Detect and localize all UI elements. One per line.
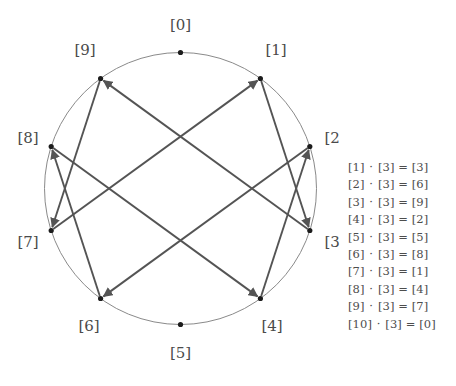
modular-multiplication-diagram: [0][1][2][3][4][5][6][7][8][9] [0, 0, 340, 386]
vertex-label-7: [7] [17, 233, 38, 251]
equation-rhs: [4] [412, 282, 429, 296]
equation-op: · [368, 282, 374, 296]
vertex-label-6: [6] [78, 317, 99, 335]
vertex-dot-2 [307, 144, 312, 149]
equation-factor: [3] [378, 230, 395, 244]
vertex-dot-4 [258, 296, 263, 301]
edge-1-to-3 [261, 81, 308, 227]
outer-circle [45, 53, 317, 325]
vertex-label-5: [5] [170, 344, 191, 362]
equation-factor: [3] [378, 264, 395, 278]
equation-row: [4] · [3] = [2] [348, 211, 456, 228]
equation-lhs: [5] [348, 230, 365, 244]
equation-op: · [368, 230, 374, 244]
equation-rhs: [8] [412, 247, 429, 261]
vertex-dot-7 [49, 228, 54, 233]
equation-eq: = [406, 317, 416, 331]
diagram-svg: [0][1][2][3][4][5][6][7][8][9] [0, 0, 340, 386]
equation-lhs: [6] [348, 247, 365, 261]
equation-factor: [3] [378, 212, 395, 226]
equation-lhs: [4] [348, 212, 365, 226]
equation-op: · [368, 212, 374, 226]
equation-factor: [3] [378, 177, 395, 191]
equation-eq: = [398, 282, 408, 296]
equation-eq: = [398, 212, 408, 226]
equation-op: · [368, 264, 374, 278]
vertex-label-0: [0] [170, 16, 191, 34]
vertex-layer [49, 50, 313, 327]
vertex-dot-8 [49, 144, 54, 149]
equation-row: [5] · [3] = [5] [348, 229, 456, 246]
equation-lhs: [2] [348, 177, 365, 191]
equation-rhs: [5] [412, 230, 429, 244]
equation-factor: [3] [378, 247, 395, 261]
equation-row: [2] · [3] = [6] [348, 176, 456, 193]
equation-op: · [376, 317, 382, 331]
vertex-dot-6 [98, 296, 103, 301]
equation-row: [9] · [3] = [7] [348, 298, 456, 315]
equation-eq: = [398, 160, 408, 174]
equation-rhs: [7] [412, 299, 429, 313]
equation-eq: = [398, 230, 408, 244]
equation-lhs: [9] [348, 299, 365, 313]
figure-root: [0][1][2][3][4][5][6][7][8][9] [1] · [3]… [0, 0, 456, 386]
equation-row: [8] · [3] = [4] [348, 281, 456, 298]
equation-row: [1] · [3] = [3] [348, 159, 456, 176]
equation-factor: [3] [378, 160, 395, 174]
vertex-dot-1 [258, 76, 263, 81]
equation-list: [1] · [3] = [3][2] · [3] = [6][3] · [3] … [348, 159, 456, 333]
equation-rhs: [0] [419, 317, 436, 331]
vertex-label-4: [4] [261, 317, 282, 335]
equation-eq: = [398, 247, 408, 261]
equation-op: · [368, 160, 374, 174]
equation-row: [7] · [3] = [1] [348, 263, 456, 280]
equation-rhs: [3] [412, 160, 429, 174]
equation-eq: = [398, 299, 408, 313]
vertex-label-2: [2] [324, 129, 340, 147]
vertex-dot-0 [178, 50, 183, 55]
equation-op: · [368, 247, 374, 261]
vertex-dot-3 [307, 228, 312, 233]
equation-rhs: [9] [412, 195, 429, 209]
equation-row: [10] · [3] = [0] [348, 316, 456, 333]
edge-9-to-7 [52, 81, 99, 227]
equation-op: · [368, 299, 374, 313]
vertex-label-1: [1] [265, 41, 286, 59]
equation-eq: = [398, 264, 408, 278]
edge-layer [52, 81, 308, 297]
equation-eq: = [398, 195, 408, 209]
equation-factor: [3] [378, 282, 395, 296]
equation-rhs: [6] [412, 177, 429, 191]
vertex-dot-5 [178, 322, 183, 327]
equation-lhs: [7] [348, 264, 365, 278]
vertex-label-9: [9] [74, 41, 95, 59]
equation-lhs: [1] [348, 160, 365, 174]
vertex-label-8: [8] [17, 129, 38, 147]
equation-rhs: [1] [412, 264, 429, 278]
equation-lhs: [8] [348, 282, 365, 296]
edge-4-to-2 [261, 150, 308, 296]
vertex-label-3: [3] [324, 233, 340, 251]
equation-op: · [368, 195, 374, 209]
equation-op: · [368, 177, 374, 191]
equation-rhs: [2] [412, 212, 429, 226]
equation-row: [6] · [3] = [8] [348, 246, 456, 263]
equation-factor: [3] [378, 299, 395, 313]
equation-eq: = [398, 177, 408, 191]
equation-lhs: [3] [348, 195, 365, 209]
vertex-dot-9 [98, 76, 103, 81]
equation-lhs: [10] [348, 317, 372, 331]
equation-factor: [3] [385, 317, 402, 331]
equation-row: [3] · [3] = [9] [348, 194, 456, 211]
edge-6-to-8 [52, 150, 99, 296]
equation-factor: [3] [378, 195, 395, 209]
